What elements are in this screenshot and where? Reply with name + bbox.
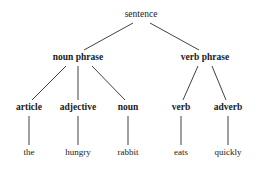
tree-node-leaf-rabbit: rabbit <box>118 148 139 157</box>
tree-edge-layer <box>0 0 261 170</box>
tree-edge <box>150 23 199 50</box>
tree-node-leaf-quickly: quickly <box>215 148 242 157</box>
tree-node-leaf-the: the <box>24 148 35 157</box>
tree-node-pos-adverb: adverb <box>214 103 243 113</box>
tree-node-root-sentence: sentence <box>125 10 158 20</box>
tree-node-pos-noun: noun <box>118 103 139 113</box>
tree-edge <box>32 66 66 100</box>
tree-node-pos-verb: verb <box>172 103 190 113</box>
tree-edge <box>84 23 133 50</box>
tree-node-pos-article: article <box>16 103 42 113</box>
tree-node-leaf-hungry: hungry <box>65 148 91 157</box>
tree-edge <box>92 66 125 100</box>
tree-node-leaf-eats: eats <box>174 148 188 157</box>
tree-node-pos-adjective: adjective <box>60 103 96 113</box>
tree-edge <box>183 66 198 100</box>
syntax-tree-figure: sentencenoun phraseverb phrasearticleadj… <box>0 0 261 170</box>
tree-node-phrase-noun-phrase: noun phrase <box>53 53 103 63</box>
tree-node-phrase-verb-phrase: verb phrase <box>181 53 229 63</box>
tree-edge <box>212 66 226 100</box>
